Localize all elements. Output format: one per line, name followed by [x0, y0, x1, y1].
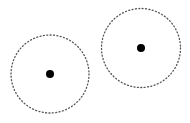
center-dot: [46, 70, 54, 78]
circle-group-right: [102, 9, 181, 88]
diagram-canvas: [0, 0, 190, 123]
circle-group-left: [11, 35, 89, 113]
center-dot: [137, 44, 145, 52]
